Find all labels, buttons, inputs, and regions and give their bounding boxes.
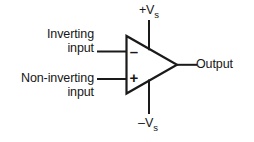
positive-supply-label: +Vs — [125, 4, 173, 21]
negative-supply-label: –Vs — [124, 117, 172, 134]
positive-supply-label-subscript: s — [154, 9, 159, 20]
noninverting-input-label: Non-inverting input — [0, 72, 94, 99]
opamp-diagram: Inverting input Non-inverting input Outp… — [0, 0, 254, 142]
negative-supply-label-subscript: s — [153, 122, 158, 133]
noninverting-terminal-sign: + — [127, 70, 141, 85]
inverting-input-label-line1: Inverting — [47, 27, 94, 41]
positive-supply-label-main: +V — [139, 3, 154, 17]
noninverting-input-label-line2: input — [0, 86, 94, 100]
inverting-input-label: Inverting input — [0, 28, 94, 55]
inverting-terminal-sign: – — [127, 44, 141, 59]
negative-supply-label-main: –V — [138, 116, 153, 130]
output-label: Output — [196, 58, 233, 72]
noninverting-input-label-line1: Non-inverting — [21, 71, 94, 85]
inverting-input-label-line2: input — [0, 42, 94, 56]
output-label-text: Output — [196, 57, 233, 71]
